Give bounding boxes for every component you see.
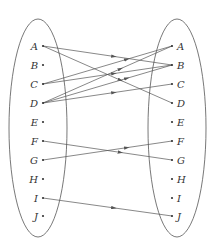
left-label-i: I	[33, 193, 39, 204]
right-dot-e	[171, 121, 173, 123]
left-label-d: D	[29, 98, 38, 109]
left-dot-e	[42, 121, 44, 123]
right-label-d: D	[176, 98, 185, 109]
left-label-f: F	[30, 136, 39, 147]
left-dot-d	[42, 102, 44, 104]
right-label-c: C	[177, 79, 185, 90]
arrow-a-to-b	[43, 46, 172, 65]
left-dot-i	[42, 197, 44, 199]
arrows-group	[43, 46, 172, 216]
right-set-elements: ABCDEFGHIJ	[171, 41, 186, 222]
left-dot-j	[42, 215, 44, 217]
right-dot-a	[171, 45, 173, 47]
mapping-diagram: ABCDEFGHIJ ABCDEFGHIJ	[0, 0, 215, 250]
right-label-a: A	[176, 41, 184, 52]
left-label-c: C	[30, 79, 38, 90]
left-dot-a	[42, 45, 44, 47]
right-label-j: J	[175, 211, 182, 222]
right-dot-j	[171, 215, 173, 217]
right-set-oval	[148, 19, 206, 237]
left-label-b: B	[30, 60, 38, 71]
left-label-j: J	[32, 211, 39, 222]
right-dot-i	[171, 197, 173, 199]
right-label-i: I	[176, 193, 182, 204]
left-dot-h	[42, 178, 44, 180]
left-dot-f	[42, 140, 44, 142]
right-label-h: H	[176, 174, 186, 185]
right-dot-d	[171, 102, 173, 104]
right-label-e: E	[176, 117, 185, 128]
right-dot-h	[171, 178, 173, 180]
left-set-oval	[9, 19, 67, 237]
left-label-g: G	[30, 155, 38, 166]
right-dot-f	[171, 140, 173, 142]
arrow-c-to-a	[43, 46, 172, 84]
right-label-f: F	[176, 136, 185, 147]
left-dot-b	[42, 64, 44, 66]
arrow-i-to-j	[43, 198, 172, 216]
left-label-a: A	[30, 41, 38, 52]
right-dot-g	[171, 159, 173, 161]
left-label-e: E	[30, 117, 39, 128]
left-dot-c	[42, 83, 44, 85]
right-dot-c	[171, 83, 173, 85]
right-label-g: G	[177, 155, 185, 166]
arrow-d-to-c	[43, 84, 172, 103]
left-label-h: H	[28, 174, 38, 185]
left-dot-g	[42, 159, 44, 161]
right-dot-b	[171, 64, 173, 66]
right-label-b: B	[176, 60, 184, 71]
left-set-elements: ABCDEFGHIJ	[28, 41, 44, 222]
